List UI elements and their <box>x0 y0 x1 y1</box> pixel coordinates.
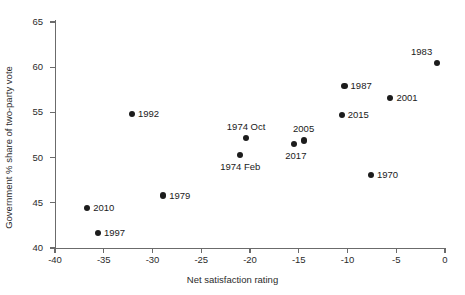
scatter-chart: 404550556065 -40-35-30-25-20-15-10-50 Ne… <box>0 0 465 295</box>
x-tick <box>201 248 202 253</box>
data-point-label: 2017 <box>285 150 306 161</box>
data-point-label: 1997 <box>104 227 125 238</box>
y-tick-label: 50 <box>32 152 43 163</box>
y-tick-label: 60 <box>32 61 43 72</box>
x-tick-label: -35 <box>97 254 111 265</box>
x-tick <box>152 248 153 253</box>
data-point-label: 2010 <box>93 202 114 213</box>
data-point-label: 1974 Feb <box>220 161 260 172</box>
y-tick-label: 40 <box>32 242 43 253</box>
data-point-label: 2001 <box>396 92 417 103</box>
y-axis-title: Government % share of two-party vote <box>2 0 16 295</box>
x-tick-label: 0 <box>442 254 447 265</box>
data-point-label: 2005 <box>293 123 314 134</box>
data-point[interactable] <box>95 230 101 236</box>
x-tick-label: -15 <box>292 254 306 265</box>
x-tick <box>347 248 348 253</box>
x-tick <box>396 248 397 253</box>
x-tick <box>249 248 250 253</box>
data-point[interactable] <box>160 192 166 198</box>
data-point-label: 2015 <box>348 109 369 120</box>
data-point-label: 1987 <box>351 80 372 91</box>
y-tick-label: 45 <box>32 197 43 208</box>
data-point[interactable] <box>339 112 345 118</box>
data-point[interactable] <box>368 172 374 178</box>
data-point[interactable] <box>291 141 297 147</box>
x-axis-title: Net satisfaction rating <box>0 274 465 285</box>
data-point[interactable] <box>243 135 249 141</box>
y-tick-label: 55 <box>32 106 43 117</box>
x-tick-label: -20 <box>243 254 257 265</box>
data-point[interactable] <box>434 60 440 66</box>
x-tick-label: -25 <box>194 254 208 265</box>
x-tick <box>103 248 104 253</box>
plot-area <box>55 22 445 248</box>
x-tick-label: -30 <box>146 254 160 265</box>
x-tick-label: -5 <box>392 254 400 265</box>
x-tick-label: -10 <box>341 254 355 265</box>
data-point-label: 1992 <box>138 108 159 119</box>
data-point[interactable] <box>341 83 347 89</box>
x-tick-label: -40 <box>48 254 62 265</box>
data-point-label: 1983 <box>411 46 432 57</box>
data-point-label: 1974 Oct <box>227 121 266 132</box>
data-point-label: 1979 <box>169 190 190 201</box>
x-tick <box>54 248 55 253</box>
y-tick-label: 65 <box>32 16 43 27</box>
data-point[interactable] <box>301 137 307 143</box>
x-tick <box>298 248 299 253</box>
data-point-label: 1970 <box>377 169 398 180</box>
x-tick <box>444 248 445 253</box>
